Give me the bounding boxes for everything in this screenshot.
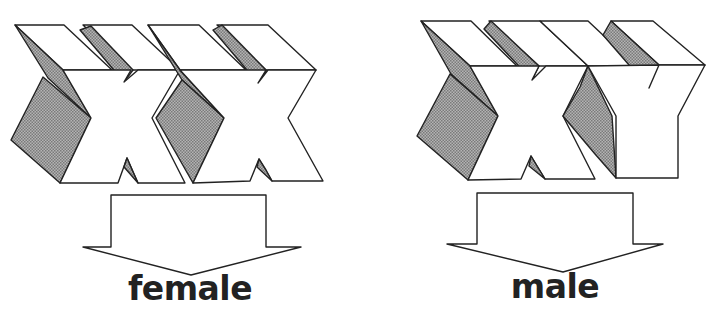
female-arrow: [83, 195, 301, 275]
male-arrow: [447, 193, 663, 272]
label-female: female: [120, 272, 260, 305]
letter-x-2: [148, 25, 323, 183]
label-male: male: [500, 270, 610, 303]
letter-x-1: [11, 25, 185, 183]
male-chromosomes-xy: [417, 21, 705, 180]
chromosome-diagram: [0, 0, 725, 317]
female-chromosomes-xx: [11, 25, 323, 183]
